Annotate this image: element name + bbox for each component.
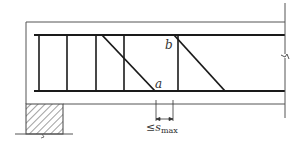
label-spacing: ≤smax [146,121,178,135]
label-spacing-sub: max [161,126,178,135]
bent-up-bars [102,35,225,91]
label-spacing-main: ≤s [146,121,161,134]
label-point-a: a [155,77,162,91]
spacing-dimension [156,100,173,121]
beam-diagram: b a ≤smax [0,0,302,145]
break-line [281,3,289,118]
support-block [15,104,73,138]
label-point-b: b [165,38,173,52]
